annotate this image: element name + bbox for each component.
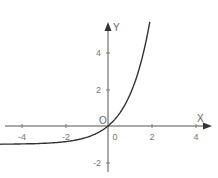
x-tick-label: 0 — [112, 132, 117, 142]
x-tick-label: -2 — [62, 132, 70, 142]
origin-label: O — [99, 115, 107, 126]
y-axis-label: Y — [113, 22, 120, 33]
x-tick-label: -4 — [18, 132, 26, 142]
x-tick-label: 2 — [149, 132, 154, 142]
y-tick-label: -2 — [93, 158, 101, 168]
x-tick-label: 4 — [193, 132, 198, 142]
plot-canvas: -4 -2 0 2 4 4 2 -2 O X Y — [0, 0, 218, 178]
x-axis-label: X — [197, 113, 204, 124]
y-axis-arrow-icon — [105, 22, 112, 31]
y-tick-label: 4 — [96, 48, 101, 58]
x-axis-arrow-icon — [203, 123, 212, 130]
y-tick-label: 2 — [96, 85, 101, 95]
